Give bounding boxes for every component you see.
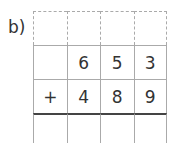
plus-sign: + <box>33 79 67 113</box>
result-cell[interactable] <box>134 113 168 143</box>
exercise-label: b) <box>8 17 25 37</box>
operator-cell <box>33 45 67 79</box>
carry-cell[interactable] <box>134 11 168 45</box>
digit-cell: 4 <box>67 79 101 113</box>
digit-cell: 8 <box>100 79 134 113</box>
result-cell[interactable] <box>67 113 101 143</box>
result-cell[interactable] <box>100 113 134 143</box>
carry-cell[interactable] <box>100 11 134 45</box>
carry-row <box>33 11 167 45</box>
addition-grid: 6 5 3 + 4 8 9 <box>33 11 167 143</box>
second-addend-row: + 4 8 9 <box>33 79 167 113</box>
carry-cell[interactable] <box>67 11 101 45</box>
digit-cell: 3 <box>134 45 168 79</box>
digit-cell: 6 <box>67 45 101 79</box>
first-addend-row: 6 5 3 <box>33 45 167 79</box>
result-row <box>33 113 167 143</box>
digit-cell: 9 <box>134 79 168 113</box>
digit-cell: 5 <box>100 45 134 79</box>
carry-cell[interactable] <box>33 11 67 45</box>
result-cell[interactable] <box>33 113 67 143</box>
